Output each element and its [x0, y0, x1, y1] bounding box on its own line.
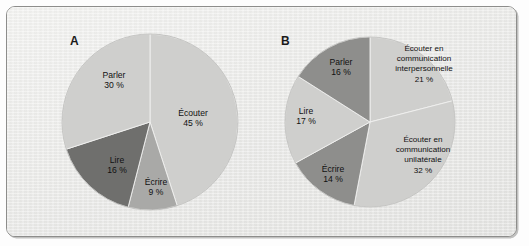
- pie-slice-label: Écrire14 %: [322, 164, 345, 184]
- panel-letter-a: A: [70, 34, 79, 48]
- pie-charts-svg: Écouter45 %Écrire9 %Lire16 %Parler30 %Éc…: [0, 0, 529, 246]
- pie-slice-label: Parler30 %: [103, 70, 126, 90]
- figure-container: Écouter45 %Écrire9 %Lire16 %Parler30 %Éc…: [0, 0, 529, 246]
- pie-slice-label: Lire16 %: [107, 155, 127, 175]
- pie-slice-label: Lire17 %: [296, 106, 316, 126]
- pie-slice-label: Parler16 %: [330, 57, 353, 77]
- panel-letter-b: B: [281, 34, 290, 48]
